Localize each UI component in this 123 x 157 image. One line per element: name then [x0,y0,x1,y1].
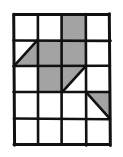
grid-line-layer [14,14,111,146]
shaded-cell-r2c3 [62,40,86,67]
shaded-cell-r1c3 [62,14,86,40]
shaded-cell-r2c2 [38,40,62,66]
grid-vline-4 [109,14,110,146]
shaded-cell-r3c2 [38,66,63,93]
grid-shading-figure [0,0,123,157]
grid-diagram-svg [0,0,123,157]
grid-vline-0 [14,14,15,145]
